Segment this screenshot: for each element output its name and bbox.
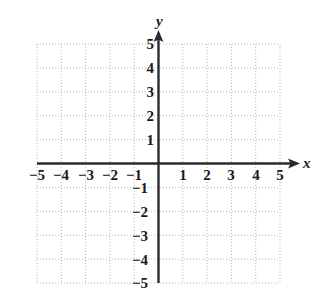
coordinate-grid-svg	[0, 0, 315, 291]
y-tick-label-5: 5	[132, 37, 154, 52]
x-axis-name-label: x	[303, 156, 311, 171]
x-tick-label-neg2: −2	[97, 168, 123, 183]
y-tick-label-neg3: −3	[132, 229, 158, 244]
y-tick-label-neg2: −2	[132, 205, 158, 220]
x-tick-label-neg3: −3	[73, 168, 99, 183]
x-tick-label-1: 1	[171, 168, 195, 183]
y-tick-label-4: 4	[132, 61, 154, 76]
x-tick-label-neg4: −4	[48, 168, 74, 183]
x-tick-label-4: 4	[244, 168, 268, 183]
x-tick-label-3: 3	[219, 168, 243, 183]
y-tick-label-neg1: −1	[132, 181, 158, 196]
x-tick-label-2: 2	[195, 168, 219, 183]
y-tick-label-1: 1	[132, 133, 154, 148]
y-tick-label-neg5: −5	[132, 276, 158, 291]
y-tick-label-neg4: −4	[132, 253, 158, 268]
x-tick-label-neg5: −5	[24, 168, 50, 183]
x-tick-label-5: 5	[268, 168, 292, 183]
coordinate-plane-figure: y x −5 −4 −3 −2 −1 1 2 3 4 5 5 4 3 2 1 −…	[0, 0, 315, 291]
y-tick-label-3: 3	[132, 85, 154, 100]
y-axis-name-label: y	[156, 14, 163, 29]
y-tick-label-2: 2	[132, 109, 154, 124]
